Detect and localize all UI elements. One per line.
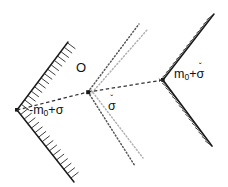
origin-point <box>86 90 90 94</box>
origin-label: O <box>76 61 86 74</box>
center-cone-upper-ray-dark <box>88 24 139 92</box>
left-wedge-upper-hatching <box>21 43 75 110</box>
left-wedge-label-sigma-group: ˇσ <box>56 104 64 117</box>
right-wedge-label: m0+ˇσ <box>174 68 204 82</box>
left-wedge-label-plus: + <box>48 103 55 117</box>
center-cone-label-sigma-group: ˇσ <box>108 100 116 113</box>
dashed-link-right <box>88 80 163 92</box>
right-wedge-label-sigma-group: ˇσ <box>196 68 204 81</box>
left-wedge-label-prefix: -m <box>29 103 44 117</box>
left-wedge-label: -m0+ˇσ <box>29 104 63 118</box>
right-wedge-label-prefix: m <box>174 67 184 81</box>
center-cone-lower-ray-light <box>91 90 143 158</box>
wedge-diagram-svg <box>0 0 228 187</box>
right-wedge-label-plus: + <box>189 67 196 81</box>
right-wedge-lower-hatching <box>159 79 213 147</box>
center-cone-upper-ray-light <box>90 30 147 95</box>
left-wedge-lower-hatching <box>21 109 79 178</box>
figure-canvas: O -m0+ˇσ m0+ˇσ ˇσ <box>0 0 228 187</box>
left-wedge-label-caron: ˇ <box>58 98 61 107</box>
center-cone-label: ˇσ <box>108 100 116 113</box>
right-wedge-lower-arm <box>163 80 212 146</box>
left-wedge-lower-arm <box>17 110 74 182</box>
center-cone-label-caron: ˇ <box>110 94 113 103</box>
right-wedge-label-caron: ˇ <box>199 62 202 71</box>
